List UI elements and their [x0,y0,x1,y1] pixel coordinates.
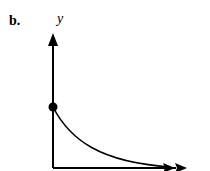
diagram-canvas [0,0,210,171]
x-axis-arrowhead-icon-2 [175,163,187,171]
y-intercept-dot [49,103,58,112]
y-axis-arrowhead-icon [48,33,58,46]
decay-curve [53,107,170,167]
